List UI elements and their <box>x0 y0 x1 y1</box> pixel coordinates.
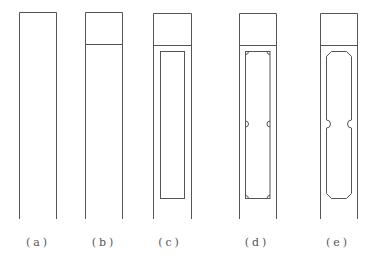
panel-d-inner-rect <box>246 52 271 199</box>
panel-b-label: (b) <box>84 236 124 249</box>
panel-a-label: (a) <box>18 236 58 249</box>
diagram-canvas <box>0 0 368 266</box>
panel-e-inner-chamfered <box>327 52 352 199</box>
panel-b-shape <box>86 13 123 220</box>
panel-e-shape <box>321 14 358 220</box>
panel-c-shape <box>154 14 192 220</box>
panel-c-inner-rect <box>161 52 185 199</box>
panel-d-label: (d) <box>237 236 277 249</box>
panel-e-label: (e) <box>318 236 358 249</box>
panel-d-shape <box>240 14 277 220</box>
panel-a-shape <box>20 13 57 220</box>
panel-c-label: (c) <box>150 236 190 249</box>
